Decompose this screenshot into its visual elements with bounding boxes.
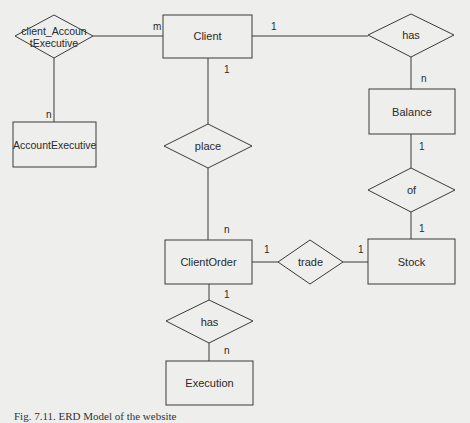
cardinality-client-has: 1 [271, 21, 277, 32]
entity-stock-label: Stock [368, 256, 455, 268]
entity-execution-label: Execution [166, 377, 253, 389]
cardinality-has-execution: n [224, 345, 230, 356]
cardinality-balance-of: 1 [419, 141, 425, 152]
relationship-has-bottom-label: has [166, 316, 253, 328]
cardinality-trade-stock: 1 [358, 244, 364, 255]
figure-caption: Fig. 7.11. ERD Model of the website [14, 410, 176, 422]
relationship-has-top-label: has [368, 29, 454, 41]
entity-accountexecutive-label: AccountExecutive [13, 139, 96, 151]
diagram-shapes [0, 0, 470, 423]
relationship-cae-label-line1: client_Accoun [15, 25, 93, 37]
cardinality-clientorder-has: 1 [224, 289, 230, 300]
relationship-place-label: place [164, 140, 252, 152]
cardinality-client-cae: m [153, 21, 161, 32]
er-diagram: Client AccountExecutive Balance ClientOr… [0, 0, 470, 423]
relationship-of-label: of [368, 184, 455, 196]
cardinality-place-clientorder: n [224, 224, 230, 235]
entity-client-label: Client [163, 30, 252, 42]
cardinality-has-balance: n [421, 73, 427, 84]
cardinality-of-stock: 1 [419, 223, 425, 234]
cardinality-clientorder-trade: 1 [264, 244, 270, 255]
cardinality-client-place: 1 [224, 64, 230, 75]
entity-clientorder-label: ClientOrder [165, 256, 252, 268]
relationship-trade-label: trade [278, 256, 343, 268]
relationship-cae-label-line2: tExecutive [15, 37, 93, 49]
entity-balance-label: Balance [369, 106, 455, 118]
cardinality-cae-accountexecutive: n [46, 109, 52, 120]
